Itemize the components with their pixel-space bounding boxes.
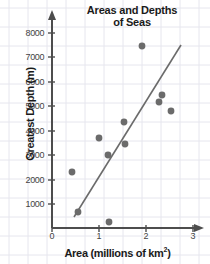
data-point bbox=[168, 108, 175, 115]
trend-line bbox=[74, 45, 181, 217]
y-tick-label-1000: 1000 bbox=[10, 199, 44, 209]
data-point bbox=[121, 119, 128, 126]
x-axis bbox=[52, 224, 204, 232]
x-tick-label-1: 1 bbox=[92, 231, 106, 241]
data-point bbox=[139, 43, 146, 50]
y-axis-label: Greatest Depth (m) bbox=[24, 34, 36, 194]
data-point bbox=[156, 99, 163, 106]
x-axis-label-tail: ) bbox=[167, 247, 170, 259]
data-point bbox=[105, 152, 112, 159]
data-point bbox=[69, 169, 76, 176]
data-point bbox=[96, 135, 103, 142]
data-points bbox=[69, 43, 175, 226]
data-point bbox=[106, 219, 113, 226]
x-axis-label: Area (millions of km2) bbox=[30, 246, 205, 259]
data-point bbox=[122, 141, 129, 148]
x-axis-label-main: Area (millions of km bbox=[64, 247, 163, 259]
y-axis bbox=[48, 10, 56, 228]
scatter-plot-chart: Areas and Depths of Seas bbox=[0, 0, 210, 264]
data-point bbox=[75, 209, 82, 216]
x-tick-label-3: 3 bbox=[186, 231, 200, 241]
data-point bbox=[159, 92, 166, 99]
x-tick-label-0: 0 bbox=[45, 231, 59, 241]
x-tick-label-2: 2 bbox=[139, 231, 153, 241]
